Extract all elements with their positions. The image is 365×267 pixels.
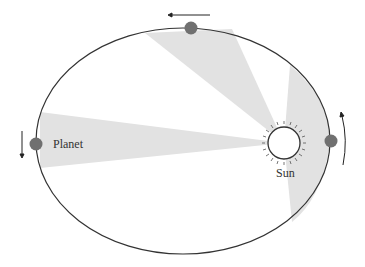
arrow-right-icon — [340, 112, 345, 165]
sun-label: Sun — [276, 166, 295, 180]
planet-top — [185, 22, 198, 35]
arrow-top-icon — [168, 13, 210, 17]
planet-right — [325, 135, 338, 148]
arrow-left-icon — [20, 131, 24, 158]
planet-left — [30, 138, 43, 151]
kepler-diagram: Sun Planet — [0, 0, 365, 267]
planet-label: Planet — [53, 137, 84, 151]
